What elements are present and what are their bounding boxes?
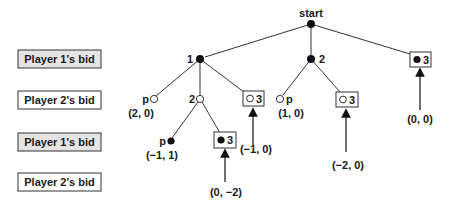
node-start: start (299, 7, 323, 28)
row-label-player1-bid-2: Player 1's bid (18, 133, 101, 151)
node-bid-3-under-1-terminal: 3 (−1, 0) (240, 91, 272, 155)
node-pass-under-2: p (1, 0) (276, 93, 304, 119)
payoff-label: (0, 0) (407, 113, 433, 125)
hollow-node-icon (150, 95, 157, 102)
game-tree-diagram: Player 1's bid Player 2's bid Player 1's… (0, 0, 449, 207)
row-label-text: Player 1's bid (24, 136, 95, 148)
node-label: p (159, 135, 166, 147)
row-label-text: Player 1's bid (24, 53, 95, 65)
row-label-player2-bid-1: Player 2's bid (18, 91, 101, 109)
filled-node-icon (196, 55, 204, 63)
hollow-node-icon (247, 95, 254, 102)
hollow-node-icon (340, 96, 347, 103)
node-label: 3 (256, 93, 262, 105)
payoff-label: (−1, 1) (146, 149, 178, 161)
node-label: p (142, 93, 149, 105)
node-pass-left: p (2, 0) (128, 93, 157, 119)
hollow-node-icon (276, 95, 283, 102)
hollow-node-icon (196, 95, 203, 102)
payoff-label: (−1, 0) (240, 143, 272, 155)
node-bid-3-under-2-terminal: 3 (−2, 0) (332, 92, 364, 171)
node-bid-2-under-1: 2 (189, 93, 204, 105)
node-bid-3-terminal: 3 (0, 0) (407, 52, 433, 125)
filled-node-icon (307, 55, 315, 63)
node-pass-deep: p (−1, 1) (146, 135, 178, 161)
tree-edges (156, 24, 410, 138)
filled-node-icon (307, 20, 315, 28)
node-label: p (286, 93, 293, 105)
filled-node-icon (167, 137, 174, 144)
node-label: 2 (189, 93, 195, 105)
row-label-text: Player 2's bid (24, 176, 95, 188)
payoff-label: (0, −2) (210, 186, 242, 198)
node-bid-3-deep-terminal: 3 (0, −2) (210, 132, 242, 198)
row-label-player1-bid-1: Player 1's bid (18, 50, 101, 68)
row-label-player2-bid-2: Player 2's bid (18, 173, 101, 191)
row-label-text: Player 2's bid (24, 94, 95, 106)
node-label: 3 (349, 94, 355, 106)
filled-node-icon (217, 136, 224, 143)
node-label: 2 (319, 53, 325, 65)
filled-node-icon (413, 56, 420, 63)
payoff-label: (2, 0) (128, 107, 154, 119)
node-label: 3 (227, 134, 233, 146)
node-bid-2: 2 (307, 53, 325, 65)
node-label: 3 (423, 54, 429, 66)
node-label: 1 (187, 53, 193, 65)
node-label: start (299, 7, 323, 19)
payoff-label: (1, 0) (278, 107, 304, 119)
payoff-label: (−2, 0) (332, 159, 364, 171)
